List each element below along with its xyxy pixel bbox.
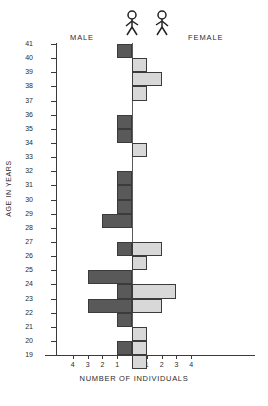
y-axis-tick-value: 20 (19, 337, 33, 344)
bar-male-age-20 (117, 341, 132, 355)
y-axis-tick (51, 185, 56, 186)
bar-male-age-31 (117, 185, 132, 199)
y-axis-tick-value: 28 (19, 224, 33, 231)
male-label: MALE (70, 33, 94, 42)
bar-male-age-29 (102, 214, 132, 228)
bar-male-age-23 (88, 299, 132, 313)
bar-female-age-21 (132, 327, 147, 341)
x-axis-tick (117, 355, 118, 359)
bar-female-age-23 (132, 299, 162, 313)
y-axis-tick (51, 341, 56, 342)
y-axis-tick (51, 143, 56, 144)
x-axis-tick (162, 355, 163, 359)
x-axis-tick-label: 4 (186, 361, 196, 368)
bar-male-age-24 (117, 284, 132, 298)
y-axis-tick (51, 129, 56, 130)
y-axis-tick-value: 35 (19, 125, 33, 132)
y-axis-tick (51, 86, 56, 87)
x-axis-tick (73, 355, 74, 359)
bar-female-age-39 (132, 72, 162, 86)
y-axis-tick-value: 33 (19, 153, 33, 160)
bar-male-age-36 (117, 115, 132, 129)
x-axis-title: NUMBER OF INDIVIDUALS (0, 374, 268, 383)
bar-male-age-30 (117, 200, 132, 214)
bar-male-age-32 (117, 171, 132, 185)
y-axis-tick (51, 200, 56, 201)
bar-female-age-40 (132, 58, 147, 72)
y-axis-line (56, 43, 57, 356)
y-axis-tick-value: 41 (19, 40, 33, 47)
y-axis-tick (51, 72, 56, 73)
y-axis-tick-value: 34 (19, 139, 33, 146)
y-axis-tick-value: 40 (19, 54, 33, 61)
bar-male-age-41 (117, 44, 132, 58)
x-axis-tick-label: 2 (97, 361, 107, 368)
bar-female-age-24 (132, 284, 176, 298)
x-axis-line (45, 355, 255, 356)
y-axis-tick (51, 214, 56, 215)
bar-male-age-22 (117, 313, 132, 327)
y-axis-tick (51, 171, 56, 172)
y-axis-tick (51, 327, 56, 328)
x-axis-tick (176, 355, 177, 359)
y-axis-tick (51, 355, 56, 356)
x-axis-tick-label: 2 (157, 361, 167, 368)
y-axis-tick (51, 44, 56, 45)
population-pyramid-chart: MALE FEMALE 4140393837363534333231302928… (0, 0, 268, 406)
y-axis-tick-value: 23 (19, 295, 33, 302)
y-axis-tick-value: 27 (19, 238, 33, 245)
y-axis-tick-value: 31 (19, 181, 33, 188)
y-axis-tick (51, 256, 56, 257)
y-axis-tick (51, 270, 56, 271)
y-axis-tick (51, 157, 56, 158)
x-axis-tick-label: 3 (83, 361, 93, 368)
bar-female-age-27 (132, 242, 162, 256)
x-axis-tick (147, 355, 148, 359)
x-axis-tick-label: 4 (68, 361, 78, 368)
y-axis-tick (51, 284, 56, 285)
bar-male-age-35 (117, 129, 132, 143)
y-axis-tick (51, 299, 56, 300)
y-axis-tick-value: 38 (19, 82, 33, 89)
bar-male-age-25 (88, 270, 132, 284)
y-axis-tick-value: 39 (19, 68, 33, 75)
bar-male-age-27 (117, 242, 132, 256)
bar-female-age-38 (132, 86, 147, 100)
bar-female-age-26 (132, 256, 147, 270)
y-axis-tick (51, 58, 56, 59)
x-axis-tick-label: 3 (171, 361, 181, 368)
bar-female-age-19 (132, 355, 147, 369)
female-stick-figure-icon (152, 10, 172, 36)
x-axis-tick-label: 1 (112, 361, 122, 368)
y-axis-tick (51, 242, 56, 243)
y-axis-title: AGE IN YEARS (5, 154, 12, 224)
y-axis-tick (51, 115, 56, 116)
male-stick-figure-icon (122, 10, 142, 36)
x-axis-tick (88, 355, 89, 359)
y-axis-tick (51, 101, 56, 102)
y-axis-tick-value: 25 (19, 266, 33, 273)
female-label: FEMALE (188, 33, 223, 42)
y-axis-tick-value: 24 (19, 280, 33, 287)
x-axis-tick (191, 355, 192, 359)
bar-female-age-34 (132, 143, 147, 157)
y-axis-tick-value: 26 (19, 252, 33, 259)
x-axis-tick (102, 355, 103, 359)
bar-female-age-20 (132, 341, 147, 355)
y-axis-tick-value: 30 (19, 196, 33, 203)
y-axis-tick-value: 29 (19, 210, 33, 217)
y-axis-tick-value: 22 (19, 309, 33, 316)
y-axis-tick (51, 313, 56, 314)
y-axis-tick-value: 32 (19, 167, 33, 174)
y-axis-tick-value: 36 (19, 111, 33, 118)
y-axis-tick-value: 21 (19, 323, 33, 330)
y-axis-tick-value: 19 (19, 351, 33, 358)
y-axis-tick (51, 228, 56, 229)
y-axis-tick-value: 37 (19, 97, 33, 104)
